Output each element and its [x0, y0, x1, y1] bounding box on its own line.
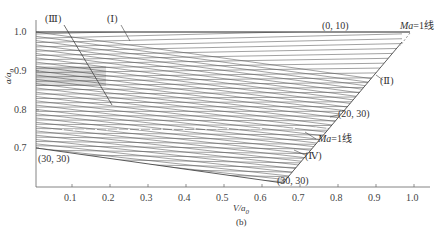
region-iii-label: (Ⅲ) [45, 14, 61, 24]
x-tick-label: 0.6 [254, 193, 267, 203]
figure-caption: (b) [236, 218, 247, 227]
point-30-30-right-label: (30, 30) [277, 176, 309, 186]
x-tick-label: 0.8 [330, 193, 343, 203]
x-ticks [72, 184, 414, 187]
x-tick-label: 1.0 [406, 193, 419, 203]
sonic-line-lower-label: Ma=1线 [318, 134, 352, 144]
region-i-label: (Ⅰ) [107, 14, 118, 24]
point-30-30-left-label: (30, 30) [38, 154, 70, 164]
sonic-line-top-dashed [400, 33, 410, 46]
region-ii-label: (Ⅱ) [380, 76, 393, 86]
y-tick-label: 0.8 [14, 105, 27, 115]
x-tick-label: 0.9 [368, 193, 381, 203]
sonic-line-top-label: Ma=1线 [400, 21, 434, 31]
x-tick-label: 0.7 [292, 193, 305, 203]
point-20-30-label: (20, 30) [338, 109, 370, 119]
x-tick-label: 0.4 [178, 193, 191, 203]
region-iii-dense-band [36, 66, 106, 86]
x-tick-label: 0.3 [140, 193, 153, 203]
y-tick-label: 0.7 [14, 143, 27, 153]
x-axis-label: V/a0 [233, 204, 249, 216]
region-iv-label: (Ⅳ) [305, 151, 322, 161]
y-tick-label: 1.0 [14, 27, 27, 37]
x-tick-label: 0.5 [216, 193, 229, 203]
x-tick-label: 0.2 [102, 193, 115, 203]
point-0-10-label: (0, 10) [322, 21, 349, 31]
leader-region-i [121, 25, 130, 41]
y-axis-label: a/a0 [4, 69, 16, 84]
y-tick-label: 0.9 [14, 66, 27, 76]
x-tick-label: 0.1 [64, 193, 77, 203]
